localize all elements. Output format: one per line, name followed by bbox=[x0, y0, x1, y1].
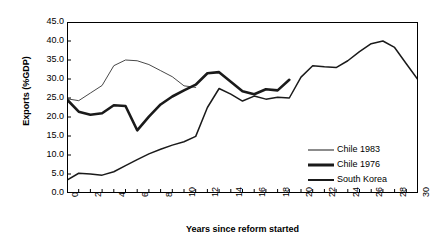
legend-label: Chile 1976 bbox=[334, 158, 380, 171]
legend-item: Chile 1983 bbox=[308, 142, 412, 157]
legend-line-swatch bbox=[308, 160, 334, 170]
legend-line-swatch bbox=[308, 175, 334, 185]
legend-label: South Korea bbox=[334, 173, 387, 186]
chart-figure: Exports (%GDP) Years since reform starte… bbox=[0, 0, 442, 244]
legend-label: Chile 1983 bbox=[334, 143, 380, 156]
chart-legend: Chile 1983Chile 1976South Korea bbox=[308, 142, 412, 187]
x-tick-label: 30 bbox=[422, 187, 431, 197]
legend-item: Chile 1976 bbox=[308, 157, 412, 172]
legend-line-swatch bbox=[308, 145, 334, 155]
legend-item: South Korea bbox=[308, 172, 412, 187]
